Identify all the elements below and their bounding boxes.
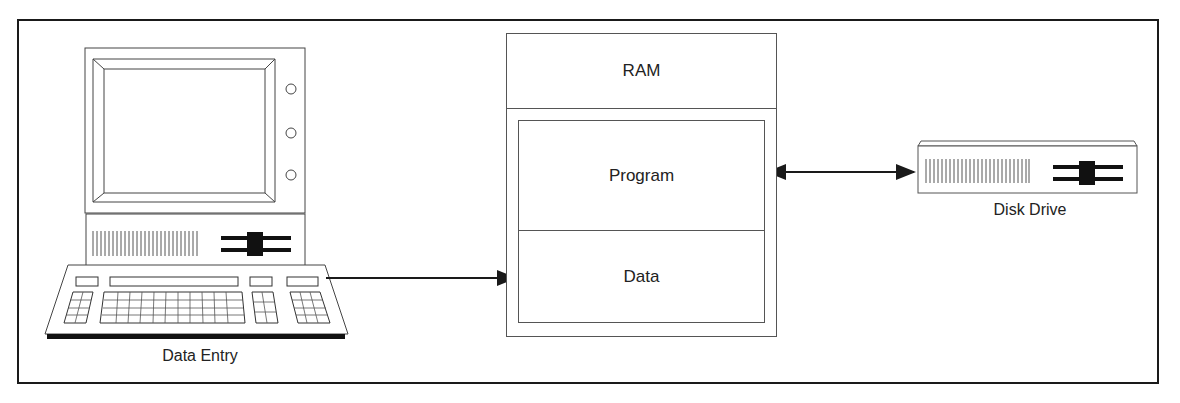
- ram-block: RAM Program Data: [506, 33, 777, 337]
- ram-title: RAM: [507, 34, 776, 109]
- data-entry-label: Data Entry: [130, 347, 270, 365]
- computer-terminal-icon: [45, 48, 348, 339]
- program-segment: Program: [519, 121, 764, 231]
- disk-drive-label: Disk Drive: [960, 201, 1100, 219]
- ram-segments: Program Data: [518, 120, 765, 323]
- disk-drive-icon: [918, 141, 1137, 193]
- data-segment: Data: [519, 231, 764, 322]
